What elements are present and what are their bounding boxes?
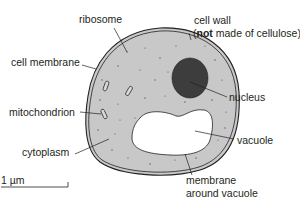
- label-mitochondrion: mitochondrion: [9, 106, 75, 118]
- label-ribosome: ribosome: [79, 13, 122, 25]
- label-vacuole: vacuole: [237, 134, 273, 146]
- label-cell-wall-note: (not made of cellulose): [193, 27, 300, 39]
- label-cell-membrane: cell membrane: [11, 56, 80, 68]
- label-membrane-around-vacuole-1: membrane: [186, 174, 236, 186]
- cell-wall-rest: made of cellulose): [213, 27, 300, 39]
- scale-bar-label: 1 µm: [1, 174, 25, 186]
- nucleus: [172, 58, 208, 98]
- label-cell-wall: cell wall: [194, 14, 231, 26]
- not-emphasis: not: [197, 27, 213, 39]
- label-membrane-around-vacuole-2: around vacuole: [186, 187, 258, 199]
- label-cytoplasm: cytoplasm: [22, 146, 69, 158]
- label-nucleus: nucleus: [229, 91, 265, 103]
